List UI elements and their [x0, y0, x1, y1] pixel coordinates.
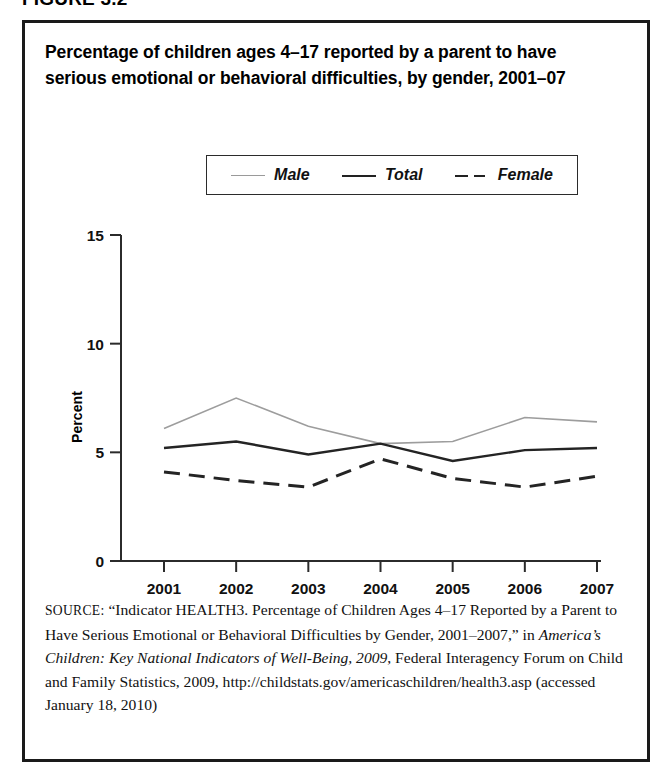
x-tick-label: 2005	[435, 580, 470, 597]
chart-series	[164, 398, 597, 487]
series-line-total	[164, 441, 597, 461]
x-tick-label: 2001	[147, 580, 182, 597]
series-line-male	[164, 398, 597, 444]
y-tick-label: 15	[87, 227, 105, 244]
x-tick-label: 2002	[219, 580, 253, 597]
x-tick-label: 2004	[363, 580, 398, 597]
source-text-part1: “Indicator HEALTH3. Percentage of Childr…	[45, 601, 617, 643]
figure-box: Percentage of children ages 4–17 reporte…	[22, 20, 650, 762]
y-tick-label: 0	[95, 553, 104, 570]
source-note: SOURCE: “Indicator HEALTH3. Percentage o…	[45, 598, 631, 717]
y-tick-label: 5	[95, 444, 104, 461]
series-line-female	[164, 459, 597, 487]
line-chart: 0510152001200220032004200520062007	[25, 23, 650, 603]
figure-number: FIGURE 3.2	[22, 0, 127, 10]
x-tick-label: 2006	[508, 580, 543, 597]
chart-tick-labels: 0510152001200220032004200520062007	[87, 227, 614, 597]
x-tick-label: 2003	[291, 580, 326, 597]
chart-axes	[110, 235, 601, 572]
x-tick-label: 2007	[580, 580, 614, 597]
source-label: SOURCE:	[45, 603, 105, 618]
y-tick-label: 10	[87, 336, 104, 353]
